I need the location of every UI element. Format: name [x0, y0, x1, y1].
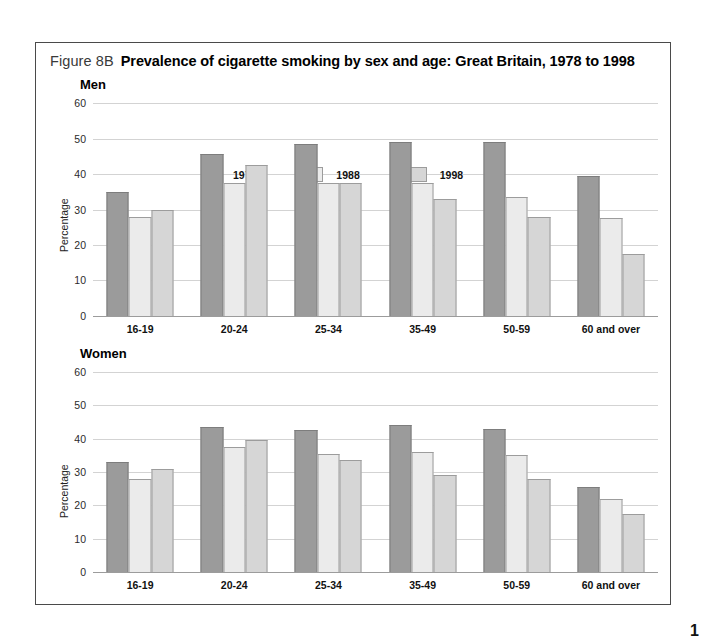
x-axis-label: 50-59: [503, 323, 530, 335]
x-axis-label: 35-49: [409, 579, 436, 591]
bar-1988: [317, 183, 339, 316]
bar-1998: [245, 440, 267, 572]
plot-area-men: 60 50 40 30 20 10 0 1978 1988 1998: [93, 103, 658, 316]
y-tick-men-30: 30: [74, 204, 86, 216]
bar-cluster: [577, 103, 644, 316]
bar-group: 20-24: [187, 372, 281, 572]
bar-group: 16-19: [93, 372, 187, 572]
bar-1998: [528, 217, 550, 316]
y-tick-women-60: 60: [74, 366, 86, 378]
y-tick-men-50: 50: [74, 133, 86, 145]
figure-frame: Figure 8BPrevalence of cigarette smoking…: [35, 42, 671, 605]
x-axis-label: 60 and over: [582, 579, 640, 591]
bar-1998: [340, 460, 362, 572]
x-axis-label: 16-19: [127, 323, 154, 335]
bar-1998: [434, 475, 456, 572]
bar-group: 25-34: [281, 372, 375, 572]
bar-cluster: [295, 372, 362, 572]
bar-1988: [411, 183, 433, 316]
axis-baseline-men: [93, 316, 658, 317]
plot-area-women: 60 50 40 30 20 10 0 16-1920-2425-3435-49…: [93, 372, 658, 572]
bar-group: 60 and over: [564, 103, 658, 316]
bar-1988: [506, 197, 528, 316]
bar-1988: [129, 479, 151, 572]
bar-group: 25-34: [281, 103, 375, 316]
bar-1978: [201, 154, 223, 316]
figure-title-row: Figure 8BPrevalence of cigarette smoking…: [50, 52, 660, 70]
x-axis-label: 35-49: [409, 323, 436, 335]
bar-cluster: [107, 103, 174, 316]
bar-1988: [223, 183, 245, 316]
chart-panel-women: Women Percentage 60 50 40 30 20 10 0 16-…: [36, 346, 670, 606]
y-tick-women-30: 30: [74, 466, 86, 478]
x-axis-label: 25-34: [315, 579, 342, 591]
bar-group: 60 and over: [564, 372, 658, 572]
x-axis-label: 20-24: [221, 579, 248, 591]
bar-1978: [295, 430, 317, 572]
bar-cluster: [483, 372, 550, 572]
bar-1998: [622, 514, 644, 572]
y-tick-men-20: 20: [74, 239, 86, 251]
bar-1988: [506, 455, 528, 572]
bar-1978: [577, 487, 599, 572]
y-tick-women-0: 0: [80, 566, 86, 578]
bar-1998: [528, 479, 550, 572]
y-tick-men-60: 60: [74, 97, 86, 109]
bar-1988: [411, 452, 433, 572]
chart-panel-men: Men Percentage 60 50 40 30 20 10 0 1978: [36, 77, 670, 367]
bar-cluster: [201, 103, 268, 316]
bar-1988: [600, 218, 622, 316]
bar-1998: [151, 469, 173, 572]
bar-1978: [201, 427, 223, 572]
y-tick-women-10: 10: [74, 533, 86, 545]
bar-cluster: [389, 372, 456, 572]
bar-1998: [434, 199, 456, 316]
x-axis-label: 16-19: [127, 579, 154, 591]
bar-1978: [389, 425, 411, 572]
y-tick-men-40: 40: [74, 168, 86, 180]
bar-1998: [245, 165, 267, 316]
bar-cluster: [107, 372, 174, 572]
bar-cluster: [577, 372, 644, 572]
axis-baseline-women: [93, 572, 658, 573]
bar-cluster: [295, 103, 362, 316]
bar-1998: [151, 210, 173, 317]
bar-cluster: [389, 103, 456, 316]
panel-heading-men: Men: [80, 77, 106, 92]
bar-1978: [107, 192, 129, 316]
bar-1978: [389, 142, 411, 316]
bar-groups-women: 16-1920-2425-3435-4950-5960 and over: [93, 372, 658, 572]
bar-1978: [107, 462, 129, 572]
bar-1988: [129, 217, 151, 316]
x-axis-label: 20-24: [221, 323, 248, 335]
bar-group: 35-49: [376, 103, 470, 316]
y-tick-men-10: 10: [74, 274, 86, 286]
bar-1998: [340, 183, 362, 316]
bar-1988: [600, 499, 622, 572]
bar-1978: [577, 176, 599, 316]
bar-1978: [483, 429, 505, 572]
x-axis-label: 25-34: [315, 323, 342, 335]
bar-groups-men: 16-1920-2425-3435-4950-5960 and over: [93, 103, 658, 316]
y-tick-women-20: 20: [74, 499, 86, 511]
y-tick-men-0: 0: [80, 310, 86, 322]
x-axis-label: 50-59: [503, 579, 530, 591]
bar-group: 35-49: [376, 372, 470, 572]
page-title: Prevalence of cigarette smoking by sex a…: [121, 53, 635, 69]
bar-cluster: [201, 372, 268, 572]
bar-1988: [317, 454, 339, 572]
y-tick-women-40: 40: [74, 433, 86, 445]
bar-cluster: [483, 103, 550, 316]
bar-1988: [223, 447, 245, 572]
x-axis-label: 60 and over: [582, 323, 640, 335]
bar-group: 16-19: [93, 103, 187, 316]
bar-group: 50-59: [470, 372, 564, 572]
bar-1978: [295, 144, 317, 316]
page-number: 1: [690, 623, 699, 636]
panel-heading-women: Women: [80, 346, 127, 361]
y-axis-title-women: Percentage: [58, 464, 70, 518]
bar-1998: [622, 254, 644, 316]
y-tick-women-50: 50: [74, 399, 86, 411]
bar-group: 20-24: [187, 103, 281, 316]
bar-group: 50-59: [470, 103, 564, 316]
